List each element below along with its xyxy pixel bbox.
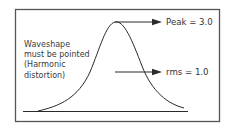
waveshape-note: Waveshape must be pointed (Harmonic dist… [24, 40, 90, 81]
note-line: distortion) [24, 71, 90, 81]
waveform-diagram: Waveshape must be pointed (Harmonic dist… [0, 0, 232, 134]
peak-arrow-head-icon [152, 19, 162, 25]
note-line: Waveshape [24, 40, 90, 50]
note-line: (Harmonic [24, 60, 90, 70]
peak-label: Peak = 3.0 [166, 17, 213, 27]
rms-label: rms = 1.0 [166, 67, 209, 77]
note-line: must be pointed [24, 50, 90, 60]
rms-arrow-head-icon [152, 69, 162, 75]
